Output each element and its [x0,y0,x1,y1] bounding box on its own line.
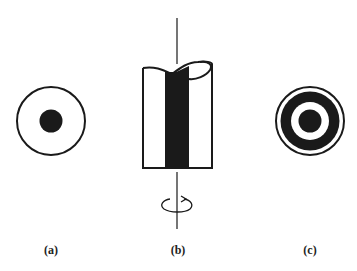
figure-canvas [0,0,357,271]
black-band [165,72,189,168]
rotation-arrowhead [181,196,186,202]
panel-c-label: (c) [303,243,316,258]
panel-b-label: (b) [171,243,186,258]
center-dot [299,110,322,133]
panel-b-diagram [143,18,212,229]
panel-a-label: (a) [44,243,58,258]
center-dot [40,110,63,133]
cylinder-opening [189,62,211,79]
panel-a-diagram [17,87,85,155]
panel-c-diagram [276,87,344,155]
